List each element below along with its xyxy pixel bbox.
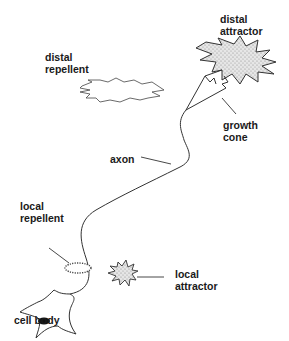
- label-cell-body: cell body: [14, 314, 60, 326]
- label-distal-repellent: distal repellent: [45, 51, 89, 75]
- label-axon: axon: [110, 153, 135, 165]
- label-distal-attractor: distal attractor: [220, 13, 263, 37]
- local-repellent-shape: [65, 263, 91, 273]
- leader-lines: [49, 98, 236, 277]
- distal-attractor-shape: [196, 36, 276, 84]
- local-attractor-shape: [108, 260, 138, 286]
- label-local-attractor: local attractor: [175, 268, 218, 292]
- neuron-guidance-diagram: [0, 0, 289, 341]
- label-growth-cone: growth cone: [223, 119, 258, 143]
- distal-repellent-shape: [80, 78, 164, 102]
- label-local-repellent: local repellent: [20, 200, 64, 224]
